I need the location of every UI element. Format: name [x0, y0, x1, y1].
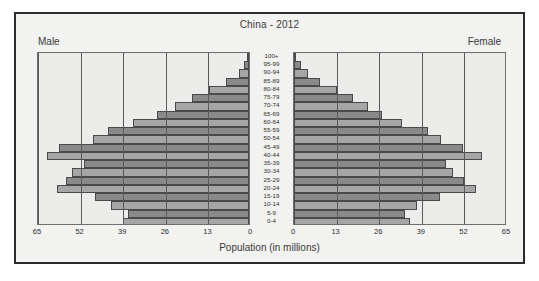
- x-tick-52: 52: [459, 227, 467, 236]
- bar-row: [294, 69, 505, 77]
- bar-40-44: [47, 152, 249, 160]
- bar-5-9: [294, 210, 405, 218]
- bar-row: [294, 210, 505, 218]
- age-group-label: 60-64: [250, 118, 293, 126]
- plot-area: 100+95-9990-9485-8980-8475-7970-7465-696…: [37, 52, 506, 225]
- bar-65-69: [157, 111, 249, 119]
- female-panel: [293, 52, 506, 225]
- bar-row: [38, 111, 249, 119]
- bar-row: [294, 119, 505, 127]
- bar-60-64: [133, 119, 249, 127]
- age-group-label: 70-74: [250, 101, 293, 109]
- age-group-label: 25-29: [250, 176, 293, 184]
- bar-5-9: [128, 210, 249, 218]
- bar-65-69: [294, 111, 382, 119]
- bar-85-89: [226, 78, 249, 86]
- bar-row: [294, 86, 505, 94]
- bar-90-94: [294, 69, 308, 77]
- bar-20-24: [294, 185, 476, 193]
- bar-0-4: [123, 218, 249, 225]
- x-tick-13: 13: [203, 227, 211, 236]
- age-group-label: 90-94: [250, 68, 293, 76]
- x-tick-39: 39: [417, 227, 425, 236]
- bar-row: [294, 111, 505, 119]
- gridline-52: [81, 53, 82, 224]
- x-tick-65: 65: [502, 227, 510, 236]
- bar-90-94: [239, 69, 249, 77]
- age-group-label: 0-4: [250, 217, 293, 225]
- chart-title: China - 2012: [16, 19, 523, 30]
- bar-95-99: [294, 61, 301, 69]
- bar-row: [294, 177, 505, 185]
- bar-row: [294, 127, 505, 135]
- gridline-52: [464, 53, 465, 224]
- age-group-label: 30-34: [250, 167, 293, 175]
- age-group-label: 20-24: [250, 184, 293, 192]
- male-bar-rows: [38, 53, 249, 224]
- age-group-label: 100+: [250, 52, 293, 60]
- age-group-label: 80-84: [250, 85, 293, 93]
- bar-40-44: [294, 152, 482, 160]
- x-axis-title: Population (in millions): [16, 242, 523, 253]
- age-group-label: 45-49: [250, 143, 293, 151]
- bar-row: [294, 144, 505, 152]
- bar-row: [38, 119, 249, 127]
- x-tick-26: 26: [374, 227, 382, 236]
- bar-row: [294, 160, 505, 168]
- gridline-13: [208, 53, 209, 224]
- age-group-label: 35-39: [250, 159, 293, 167]
- age-group-label: 55-59: [250, 126, 293, 134]
- bar-10-14: [111, 201, 249, 209]
- female-x-tick-labels: 01326395265: [293, 227, 506, 239]
- bar-row: [294, 78, 505, 86]
- bar-row: [38, 177, 249, 185]
- age-group-label: 50-54: [250, 134, 293, 142]
- x-tick-13: 13: [331, 227, 339, 236]
- bar-row: [38, 102, 249, 110]
- bar-row: [294, 53, 505, 61]
- bar-70-74: [294, 102, 368, 110]
- bar-80-84: [209, 86, 249, 94]
- bar-30-34: [72, 168, 249, 176]
- bar-55-59: [294, 127, 428, 135]
- age-group-label: 40-44: [250, 151, 293, 159]
- bar-row: [294, 185, 505, 193]
- bar-row: [294, 94, 505, 102]
- chart-frame: China - 2012 Male Female 100+95-9990-948…: [14, 12, 525, 264]
- female-side-label: Female: [468, 36, 501, 47]
- bar-20-24: [57, 185, 249, 193]
- bar-row: [294, 193, 505, 201]
- bar-row: [294, 168, 505, 176]
- bar-55-59: [108, 127, 249, 135]
- bar-row: [294, 102, 505, 110]
- female-bar-rows: [294, 53, 505, 224]
- bar-row: [294, 152, 505, 160]
- x-tick-0: 0: [291, 227, 295, 236]
- x-tick-39: 39: [118, 227, 126, 236]
- bar-70-74: [175, 102, 249, 110]
- bar-row: [38, 78, 249, 86]
- bar-row: [38, 69, 249, 77]
- age-group-axis: 100+95-9990-9485-8980-8475-7970-7465-696…: [250, 52, 293, 225]
- bar-50-54: [93, 135, 249, 143]
- bar-45-49: [59, 144, 249, 152]
- bar-row: [38, 152, 249, 160]
- bar-30-34: [294, 168, 453, 176]
- bar-row: [294, 135, 505, 143]
- bar-row: [294, 218, 505, 225]
- bar-60-64: [294, 119, 402, 127]
- age-group-label: 5-9: [250, 209, 293, 217]
- bar-row: [38, 160, 249, 168]
- x-tick-65: 65: [33, 227, 41, 236]
- bar-row: [38, 210, 249, 218]
- bar-0-4: [294, 218, 410, 225]
- gridline-39: [422, 53, 423, 224]
- gridline-65: [38, 53, 39, 224]
- gridline-39: [123, 53, 124, 224]
- bar-row: [38, 135, 249, 143]
- bar-10-14: [294, 201, 417, 209]
- bar-15-19: [294, 193, 440, 201]
- male-side-label: Male: [38, 36, 60, 47]
- chart-page: China - 2012 Male Female 100+95-9990-948…: [0, 0, 539, 281]
- bar-75-79: [192, 94, 249, 102]
